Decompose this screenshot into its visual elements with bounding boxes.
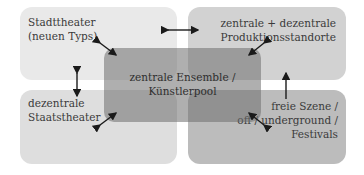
arrow-diagonal-top-left-icon	[100, 43, 116, 55]
arrow-diagonal-bottom-left-icon	[100, 113, 116, 125]
arrow-diagonal-top-right-icon	[249, 43, 264, 55]
arrows-layer	[0, 0, 364, 175]
arrow-diagonal-bottom-right-icon	[249, 113, 264, 125]
